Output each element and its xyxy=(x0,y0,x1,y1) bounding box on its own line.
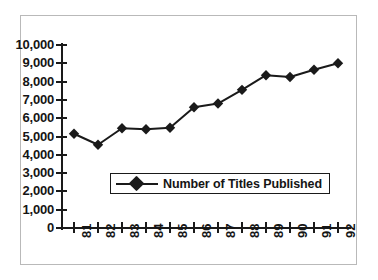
series-line xyxy=(74,63,338,144)
data-point-marker xyxy=(141,124,151,134)
series-number-of-titles-published xyxy=(0,0,378,280)
data-point-marker xyxy=(213,98,223,108)
data-point-marker xyxy=(261,70,271,80)
data-point-marker xyxy=(285,72,295,82)
data-point-marker xyxy=(69,129,79,139)
diamond-marker-icon xyxy=(129,175,145,191)
chart-legend: Number of Titles Published xyxy=(110,173,330,194)
data-point-marker xyxy=(333,58,343,68)
legend-entry-label: Number of Titles Published xyxy=(163,177,322,191)
legend-key-icon xyxy=(116,178,158,190)
data-point-marker xyxy=(237,85,247,95)
data-point-marker xyxy=(309,65,319,75)
line-chart-figure: 01,0002,0003,0004,0005,0006,0007,0008,00… xyxy=(0,0,378,280)
